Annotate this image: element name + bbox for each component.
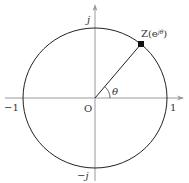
point-z-marker: [138, 41, 144, 47]
point-z-label: Z(ejθ): [141, 28, 167, 39]
x-negative-label: −1: [4, 102, 19, 113]
angle-arc: [105, 87, 110, 98]
y-negative-label: −j: [77, 170, 88, 181]
angle-theta-label: θ: [112, 86, 118, 97]
y-positive-label: j: [85, 14, 90, 25]
origin-label: O: [84, 103, 92, 114]
x-positive-label: 1: [170, 102, 176, 113]
unit-circle-diagram: Z(ejθ) θ O 1 −1 j −j: [0, 0, 189, 183]
